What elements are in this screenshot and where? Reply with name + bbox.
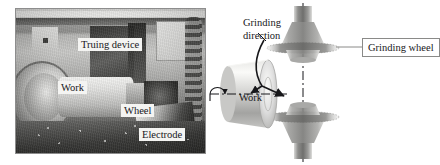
lower-grinding-wheel: [267, 102, 339, 159]
schematic-svg: [206, 0, 434, 165]
diagram-label-work: Work: [239, 92, 262, 103]
grinding-direction-line2: direction: [243, 30, 280, 41]
schematic-panel: [206, 0, 434, 165]
photo-label-wheel: Wheel: [121, 104, 154, 117]
photo-label-truing-device: Truing device: [78, 38, 142, 51]
diagram-label-grinding-direction: Grinding direction: [243, 16, 305, 42]
grinding-direction-line1: Grinding: [243, 17, 281, 28]
photo-label-electrode: Electrode: [139, 128, 185, 141]
diagram-label-grinding-wheel: Grinding wheel: [362, 38, 440, 57]
photo-label-work: Work: [58, 81, 87, 94]
